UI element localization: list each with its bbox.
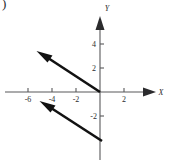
y-axis-label: Y <box>105 4 111 13</box>
coordinate-plane-svg: -6 -4 -2 2 4 2 -2 X Y <box>0 0 169 162</box>
vector-1 <box>37 51 101 92</box>
x-axis-ticks <box>28 88 124 92</box>
y-tick-label--2: -2 <box>90 112 97 121</box>
x-tick-label--2: -2 <box>73 95 80 104</box>
y-tick-label-2: 2 <box>92 64 96 73</box>
x-tick-label--6: -6 <box>25 95 32 104</box>
x-axis-arrowhead <box>143 88 156 97</box>
y-axis-arrowhead <box>96 16 105 30</box>
vector-1-shaft <box>45 56 100 92</box>
y-axis-ticks <box>100 44 104 116</box>
x-tick-label-2: 2 <box>122 95 126 104</box>
vector-2 <box>40 101 103 141</box>
x-tick-label--4: -4 <box>49 95 56 104</box>
vector-diagram-figure: ) -6 -4 -2 2 4 2 <box>0 0 169 162</box>
x-axis-label: X <box>158 88 165 97</box>
y-tick-label-4: 4 <box>92 40 96 49</box>
